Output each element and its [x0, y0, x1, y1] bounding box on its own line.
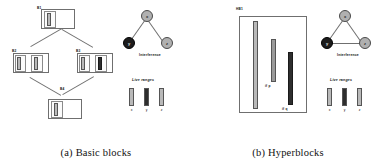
block-label-b4: B4 [60, 87, 64, 91]
b2-live-bar-y [34, 57, 38, 70]
igraph-b-node-z: z [359, 37, 371, 49]
cfg-edge-b3-b4 [62, 76, 94, 95]
cfg-edge-b2-b4 [30, 77, 62, 96]
cfg-edge-b1-b3 [62, 29, 94, 48]
live-range-label-x: x [126, 108, 137, 112]
hyperblock-annotation-if-q: if q [282, 107, 288, 111]
live-range-b-bar-y [342, 88, 347, 106]
interference-graph-b: x y z Interference [320, 8, 380, 68]
basic-block-b2 [13, 53, 49, 73]
igraph-a-node-z-label: z [166, 41, 168, 46]
live-range-b-label-y: y [339, 108, 350, 112]
b4-live-bar-x [54, 103, 58, 116]
b2-live-bar-x [17, 57, 21, 70]
igraph-a-title: Interference [130, 53, 170, 57]
b1-live-bar-x [47, 13, 51, 26]
caption-panel-a: (a) Basic blocks [0, 147, 192, 158]
igraph-b-node-x-label: x [344, 14, 346, 19]
caption-panel-b: (b) Hyperblocks [192, 147, 384, 158]
b3-live-bar-x [81, 57, 85, 70]
igraph-a-node-x: x [141, 10, 153, 22]
live-range-label-z: z [156, 108, 167, 112]
block-label-hb1: HB1 [236, 7, 243, 11]
live-range-b-label-x: x [324, 108, 335, 112]
igraph-b-node-y-label: y [326, 41, 328, 46]
igraph-a-node-z: z [161, 37, 173, 49]
igraph-a-node-y: y [123, 37, 135, 49]
igraph-b-node-y: y [321, 37, 333, 49]
live-range-bar-x [129, 88, 134, 106]
hyperblock-annotation-if-p: if p [265, 84, 271, 88]
hyperblock-hb1: if p if q [239, 16, 307, 113]
live-range-b-bar-x [327, 88, 332, 106]
live-ranges-b-title: Live ranges [330, 78, 352, 82]
igraph-b-node-x: x [339, 10, 351, 22]
hyperblock-bar-x [253, 21, 258, 109]
interference-graph-a: x y z Interference [122, 8, 182, 68]
igraph-a-node-y-label: y [128, 41, 130, 46]
b3-live-bar-z [98, 57, 102, 70]
live-range-label-y: y [141, 108, 152, 112]
live-range-bar-y [144, 88, 149, 106]
live-ranges-a-title: Live ranges [132, 78, 154, 82]
panel-hyperblocks: HB1 if p if q x y z Interference [192, 0, 384, 164]
igraph-b-node-z-label: z [364, 41, 366, 46]
live-ranges-a: Live ranges x y z [120, 78, 182, 118]
live-range-bar-z [159, 88, 164, 106]
igraph-a-node-x-label: x [146, 14, 148, 19]
hyperblock-bar-y [271, 39, 276, 82]
igraph-b-title: Interference [328, 53, 368, 57]
basic-block-b4 [48, 99, 82, 119]
live-ranges-b: Live ranges x y z [318, 78, 380, 118]
basic-block-b3 [77, 53, 113, 73]
basic-block-b1 [41, 9, 75, 29]
hyperblock-bar-z [288, 52, 293, 105]
panel-basic-blocks: B1 B2 B3 B4 [0, 0, 192, 164]
live-range-b-bar-z [357, 88, 362, 106]
cfg-edge-b1-b2 [30, 28, 62, 47]
figure-root: B1 B2 B3 B4 [0, 0, 384, 164]
live-range-b-label-z: z [354, 108, 365, 112]
igraph-b-edge-y-z [331, 43, 361, 44]
